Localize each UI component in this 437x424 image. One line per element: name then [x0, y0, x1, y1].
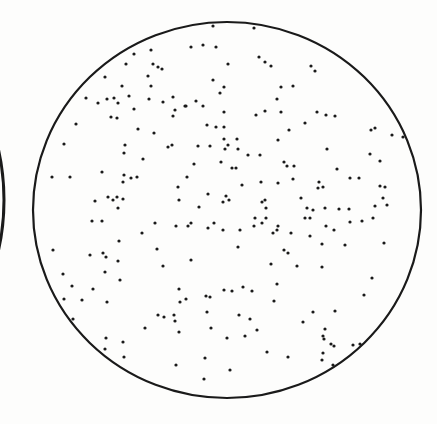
colony-dot	[382, 241, 385, 244]
colony-dot	[378, 159, 381, 162]
colony-dot	[241, 285, 244, 288]
colony-dot	[68, 175, 71, 178]
colony-dot	[173, 108, 176, 111]
colony-dot	[357, 176, 360, 179]
colony-dot	[155, 247, 158, 250]
colony-dot	[370, 276, 373, 279]
colony-dot	[101, 251, 104, 254]
colony-dot	[189, 258, 192, 261]
colony-dot	[219, 160, 222, 163]
colony-dot	[390, 133, 393, 136]
colony-dot	[156, 65, 159, 68]
colony-dot	[209, 326, 212, 329]
colony-dot	[140, 231, 143, 234]
colony-dot	[136, 127, 139, 130]
colony-dot	[161, 100, 164, 103]
colony-dot	[80, 298, 83, 301]
colony-dot	[276, 224, 279, 227]
colony-dot	[317, 180, 320, 183]
colony-dot	[149, 84, 152, 87]
colony-dot	[260, 200, 263, 203]
colony-dot	[171, 114, 174, 117]
colony-dot	[292, 164, 295, 167]
colony-dot	[320, 358, 323, 361]
colony-dot	[343, 243, 346, 246]
colony-dot	[265, 350, 268, 353]
colony-dot	[275, 282, 278, 285]
colony-dot	[308, 216, 311, 219]
colony-dot	[143, 326, 146, 329]
colony-dot	[337, 207, 340, 210]
colony-dot	[332, 228, 335, 231]
colony-dot	[295, 264, 298, 267]
colony-dot	[141, 157, 144, 160]
colony-dot	[243, 334, 246, 337]
colony-dot	[252, 26, 255, 29]
colony-dot	[50, 175, 53, 178]
colony-dot	[121, 340, 124, 343]
colony-dot	[106, 195, 109, 198]
colony-dot	[279, 85, 282, 88]
colony-dot	[383, 185, 386, 188]
colony-dot	[368, 152, 371, 155]
colony-dot	[276, 181, 279, 184]
colony-dot	[91, 287, 94, 290]
colony-dot	[147, 97, 150, 100]
colony-dot	[201, 43, 204, 46]
colony-dot	[116, 206, 119, 209]
colony-dot	[135, 175, 138, 178]
colony-dot	[153, 221, 156, 224]
colony-dot	[289, 231, 292, 234]
colony-dot	[282, 160, 285, 163]
colony-dot	[186, 224, 189, 227]
colony-dot	[269, 64, 272, 67]
neighbor-plate-edge	[0, 10, 4, 390]
colony-dot	[276, 138, 279, 141]
colony-dot	[222, 110, 225, 113]
colony-dot	[259, 180, 262, 183]
colony-dot	[253, 216, 256, 219]
colony-dot	[320, 265, 323, 268]
colony-dot	[228, 368, 231, 371]
colony-dot	[286, 251, 289, 254]
colony-dot	[385, 203, 388, 206]
colony-dot	[236, 147, 239, 150]
colony-dot	[111, 198, 114, 201]
colony-dot	[84, 96, 87, 99]
colony-dot	[162, 315, 165, 318]
colony-dot	[246, 153, 249, 156]
colony-dot	[331, 363, 334, 366]
colony-dot	[333, 114, 336, 117]
colony-dot	[211, 24, 214, 27]
colony-dot	[230, 289, 233, 292]
colony-dot	[71, 317, 74, 320]
colony-dot	[178, 300, 181, 303]
colony-dot	[313, 69, 316, 72]
colony-dot	[335, 167, 338, 170]
colony-dot	[311, 208, 314, 211]
colony-dot	[118, 278, 121, 281]
colony-dot	[152, 131, 155, 134]
colony-dot	[88, 253, 91, 256]
colony-dot	[189, 221, 192, 224]
colony-dot	[309, 64, 312, 67]
colony-dot	[103, 75, 106, 78]
colony-dot	[305, 206, 308, 209]
colony-dot	[401, 135, 404, 138]
colony-dot	[184, 297, 187, 300]
colony-dot	[132, 107, 135, 110]
colony-dot	[122, 173, 125, 176]
colony-dot	[279, 110, 282, 113]
colony-dot	[226, 143, 229, 146]
colony-dot	[287, 128, 290, 131]
colony-dot	[103, 270, 106, 273]
colony-dot	[226, 62, 229, 65]
colony-dot	[250, 289, 253, 292]
colony-dot	[373, 204, 376, 207]
colony-dot	[321, 334, 324, 337]
colony-dot	[166, 145, 169, 148]
colony-dot	[170, 143, 173, 146]
colony-dot	[264, 206, 267, 209]
colony-dot	[308, 234, 311, 237]
colony-dot	[132, 52, 135, 55]
